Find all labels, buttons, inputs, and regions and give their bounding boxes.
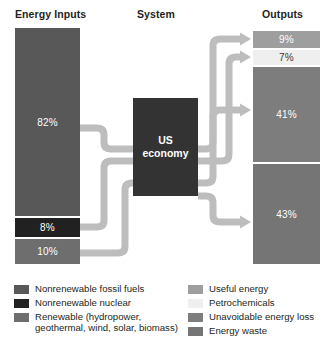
- output-segment-energy-waste-label: 43%: [276, 209, 297, 220]
- input-segment-nuclear: 8%: [15, 218, 80, 237]
- legend-swatch-fossil-fuels: [14, 285, 29, 294]
- legend-label-fossil-fuels: Nonrenewable fossil fuels: [35, 283, 144, 294]
- legend-swatch-petrochemicals: [188, 299, 203, 308]
- energy-flow-diagram: Energy Inputs System Outputs: [0, 0, 329, 355]
- legend-swatch-unavoidable-loss: [188, 313, 203, 322]
- output-segment-useful-energy-label: 9%: [279, 34, 294, 45]
- flow-arrow-economy-to-energy-waste: [198, 196, 251, 229]
- output-segment-useful-energy: 9%: [253, 31, 320, 48]
- legend-swatch-energy-waste: [188, 327, 203, 336]
- input-segment-nuclear-label: 8%: [40, 222, 55, 233]
- legend-item: Unavoidable energy loss: [188, 311, 328, 322]
- flow-arrow-economy-to-unavoidable-loss: [198, 104, 251, 184]
- output-segment-unavoidable-loss: 41%: [253, 67, 320, 162]
- legend-outputs: Useful energy Petrochemicals Unavoidable…: [188, 283, 328, 339]
- output-segment-energy-waste: 43%: [253, 164, 320, 264]
- output-segment-petrochemicals: 7%: [253, 50, 320, 65]
- legend-label-energy-waste: Energy waste: [209, 325, 267, 336]
- outputs-stacked-bar: 9% 7% 41% 43%: [253, 31, 320, 264]
- legend-item: Nonrenewable fossil fuels: [14, 283, 184, 294]
- output-segment-petrochemicals-label: 7%: [279, 52, 294, 63]
- legend-label-petrochemicals: Petrochemicals: [209, 297, 275, 308]
- legend-item: Useful energy: [188, 283, 328, 294]
- system-box-label: US economy: [142, 134, 188, 160]
- flow-arrow-economy-to-useful-energy: [198, 33, 251, 150]
- legend-item: Energy waste: [188, 325, 328, 336]
- input-segment-fossil-fuels-label: 82%: [37, 117, 58, 128]
- input-segment-renewable-label: 10%: [37, 246, 58, 257]
- system-box-us-economy: US economy: [133, 98, 198, 196]
- legend-inputs: Nonrenewable fossil fuels Nonrenewable n…: [14, 283, 184, 336]
- input-segment-renewable: 10%: [15, 239, 80, 264]
- legend-swatch-useful-energy: [188, 285, 203, 294]
- input-segment-fossil-fuels: 82%: [15, 28, 80, 216]
- system-box-label-line2: economy: [142, 147, 188, 159]
- output-segment-unavoidable-loss-label: 41%: [276, 109, 297, 120]
- legend-swatch-nuclear: [14, 299, 29, 308]
- legend-label-nuclear: Nonrenewable nuclear: [35, 297, 131, 308]
- system-box-label-line1: US: [158, 134, 173, 146]
- inputs-stacked-bar: 82% 8% 10%: [15, 28, 80, 264]
- legend-swatch-renewable: [14, 313, 29, 322]
- legend-item: Renewable (hydropower, geothermal, wind,…: [14, 311, 184, 334]
- legend-label-useful-energy: Useful energy: [209, 283, 268, 294]
- legend-label-unavoidable-loss: Unavoidable energy loss: [209, 311, 314, 322]
- legend-label-renewable: Renewable (hydropower, geothermal, wind,…: [35, 311, 184, 334]
- legend-item: Petrochemicals: [188, 297, 328, 308]
- legend-item: Nonrenewable nuclear: [14, 297, 184, 308]
